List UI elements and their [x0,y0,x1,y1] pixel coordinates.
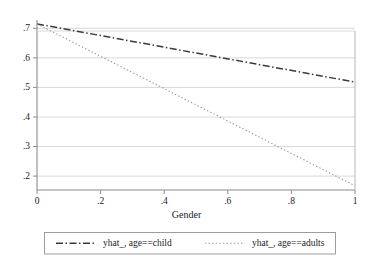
x-tick-label: 1 [345,196,365,206]
chart-container: .7 .6 .5 .4 .3 .2 0 .2 .4 .6 .8 1 Gender… [0,0,373,265]
legend-label-adults: yhat_, age==adults [252,238,324,248]
gridlines [37,28,355,176]
x-axis-title: Gender [0,209,373,220]
x-tick-label: 0 [27,196,47,206]
x-tick-label: .8 [281,196,301,206]
plot-frame [37,20,355,190]
y-tick-marks [33,28,37,176]
y-tick-label: .3 [12,141,30,151]
chart-canvas [0,0,373,265]
x-tick-marks [37,190,355,194]
y-tick-label: .2 [12,171,30,181]
y-tick-label: .5 [12,82,30,92]
y-tick-label: .4 [12,112,30,122]
series-line-adults [37,24,355,186]
y-tick-label: .7 [12,23,30,33]
x-tick-label: .4 [154,196,174,206]
y-tick-label: .6 [12,53,30,63]
x-tick-label: .6 [218,196,238,206]
legend-label-child: yhat_, age==child [103,238,172,248]
series-line-child [37,24,355,82]
x-tick-label: .2 [91,196,111,206]
